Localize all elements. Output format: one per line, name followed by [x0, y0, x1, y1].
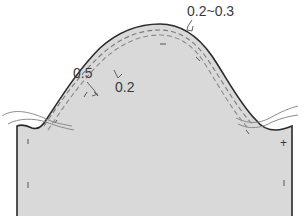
notch-plus-right: + [280, 136, 287, 150]
label-outer-allowance: 0.5 [73, 66, 92, 80]
sleeve-body [17, 24, 292, 216]
pattern-drawing [0, 0, 303, 216]
label-cap-allowance: 0.2~0.3 [187, 4, 234, 18]
sleeve-pattern-diagram: 0.5 0.2 0.2~0.3 + [0, 0, 303, 216]
leader-0.2~0.3 [187, 20, 193, 31]
label-inner-allowance: 0.2 [115, 80, 134, 94]
